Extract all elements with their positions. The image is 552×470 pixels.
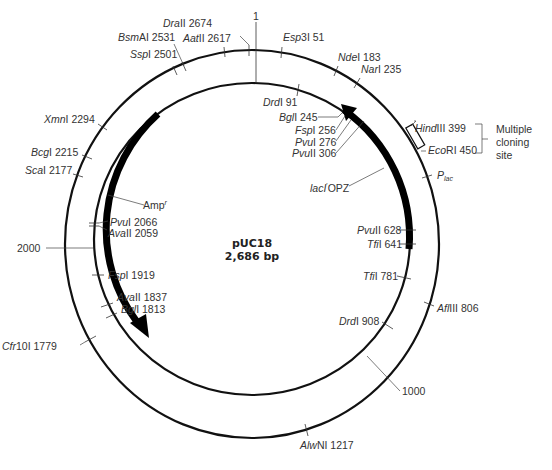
plasmid-size: 2,686 bp [225, 250, 279, 263]
mcs-label-line1: Multiple [496, 123, 532, 135]
site-esp3i-51: Esp3I 51 [283, 31, 325, 43]
site-fspi-256: FspI 256 [295, 124, 336, 136]
site-tfii-781: TfiI 781 [363, 270, 398, 282]
site-tfii-641: TfiI 641 [367, 238, 402, 250]
site-bgli-1813: BglI 1813 [121, 303, 166, 315]
site-nari-235: NarI 235 [361, 63, 401, 75]
origin-label: 1 [253, 10, 259, 22]
site-hindiii-399: HindIII 399 [415, 122, 466, 134]
site-ecori-450: EcoRI 450 [428, 144, 477, 156]
scale-1000: 1000 [402, 385, 426, 397]
site-pvuii-628: PvuII 628 [357, 224, 402, 236]
site-aatii-2617: AatII 2617 [182, 32, 231, 44]
site-sspi-2501: SspI 2501 [130, 48, 177, 60]
scale-2000: 2000 [17, 242, 41, 254]
site-afliii-806: AflIII 806 [436, 302, 479, 314]
site-scai-2177: ScaI 2177 [25, 164, 72, 176]
site-bcgi-2215: BcgI 2215 [31, 146, 78, 158]
site-pvuii-306: PvuII 306 [292, 147, 337, 159]
site-drdi-91: DrdI 91 [263, 96, 298, 108]
mcs-label-line2: cloning [496, 136, 529, 148]
site-avaii-2059: AvaII 2059 [107, 227, 158, 239]
site-cfr10i-1779: Cfr10I 1779 [2, 340, 57, 352]
site-bsmai-2531: BsmAI 2531 [118, 31, 175, 43]
mcs-label-line3: site [496, 149, 513, 161]
plasmid-map: 1 DraII 2674 AatII 2617 BsmAI 2531 SspI … [0, 0, 552, 470]
amp-label: Ampr [143, 199, 168, 211]
site-drdi-908: DrdI 908 [339, 315, 379, 327]
lacz-label: lacI'OPZ [310, 182, 350, 194]
site-draii-2674: DraII 2674 [163, 17, 212, 29]
site-avaii-1837: AvaII 1837 [116, 291, 167, 303]
site-fspi-1919: FspI 1919 [108, 269, 155, 281]
plasmid-name: pUC18 [232, 237, 272, 250]
site-xmni-2294: XmnI 2294 [43, 113, 95, 125]
site-alwni-1217: AlwNI 1217 [299, 439, 354, 451]
site-bgli-245: BglI 245 [279, 111, 318, 123]
plac-label: Plac [437, 169, 453, 182]
site-ndei-183: NdeI 183 [338, 51, 381, 63]
